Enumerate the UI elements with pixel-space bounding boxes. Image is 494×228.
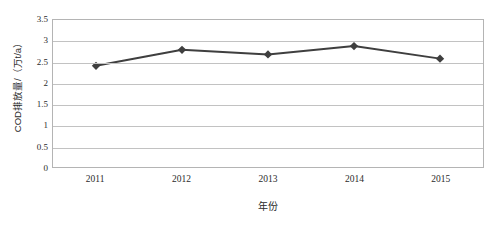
y-axis-tick-label: 1	[24, 121, 48, 130]
y-axis-tick-label: 3	[24, 36, 48, 45]
data-point-marker	[178, 46, 186, 54]
x-axis-title: 年份	[52, 198, 484, 213]
y-axis-title-label: COD排放量/（万t/a）	[10, 38, 24, 132]
gridline	[53, 105, 483, 106]
y-axis-tick-label: 2.5	[24, 57, 48, 66]
gridline	[53, 41, 483, 42]
x-axis-tick-label: 2013	[238, 173, 298, 185]
data-point-marker	[264, 50, 272, 58]
x-axis-tick-label: 2011	[65, 173, 125, 185]
x-axis-tick-label: 2014	[324, 173, 384, 185]
line-chart: COD排放量/（万t/a） 00.511.522.533.5 201120122…	[0, 0, 494, 228]
gridline	[53, 148, 483, 149]
y-axis-tick-label: 0	[24, 164, 48, 173]
gridline	[53, 63, 483, 64]
plot-area	[52, 19, 484, 168]
y-axis-tick-label: 1.5	[24, 100, 48, 109]
y-axis-tick-label: 2	[24, 78, 48, 87]
x-axis-tick-label: 2015	[411, 173, 471, 185]
gridline	[53, 126, 483, 127]
y-axis-tick-labels: 00.511.522.533.5	[24, 19, 48, 168]
data-point-marker	[436, 55, 444, 63]
data-point-marker	[350, 42, 358, 50]
x-axis-tick-labels: 20112012201320142015	[52, 173, 484, 187]
y-axis-tick-label: 0.5	[24, 142, 48, 151]
y-axis-tick-label: 3.5	[24, 15, 48, 24]
x-axis-tick-label: 2012	[152, 173, 212, 185]
gridline	[53, 84, 483, 85]
